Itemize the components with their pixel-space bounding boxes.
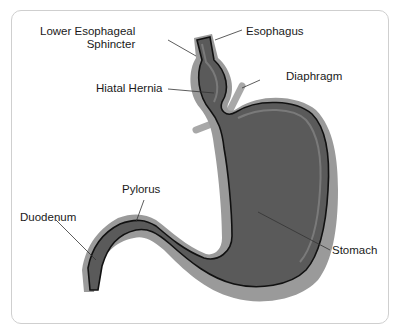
label-les-line1: Lower Esophageal (40, 25, 135, 38)
label-les-line2: Sphincter (40, 38, 135, 51)
label-stomach: Stomach (332, 244, 377, 257)
label-hiatal-hernia: Hiatal Hernia (96, 82, 162, 95)
label-duodenum: Duodenum (20, 211, 76, 224)
label-pylorus: Pylorus (122, 183, 160, 196)
label-lower-esophageal-sphincter: Lower Esophageal Sphincter (40, 25, 135, 51)
label-diaphragm: Diaphragm (286, 70, 342, 83)
label-esophagus: Esophagus (246, 25, 304, 38)
